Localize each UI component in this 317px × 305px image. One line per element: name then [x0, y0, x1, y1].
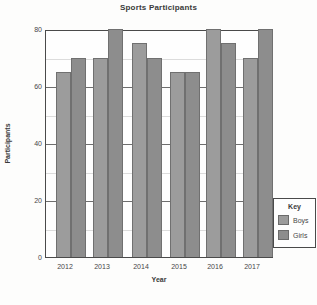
x-tick-2017: 2017 — [237, 263, 267, 270]
y-tick-80: 80 — [20, 26, 42, 33]
bar-boys-2013 — [93, 58, 108, 258]
y-tick-40: 40 — [20, 140, 42, 147]
x-axis-label: Year — [45, 276, 273, 283]
bar-chart-figure: Sports Participants Participants 0204060… — [0, 0, 317, 305]
bar-girls-2013 — [108, 29, 123, 257]
legend-title: Key — [274, 203, 315, 210]
bar-boys-2015 — [170, 72, 185, 257]
bar-girls-2016 — [221, 43, 236, 257]
legend-label-girls: Girls — [293, 232, 307, 239]
legend-item-boys: Boys — [278, 215, 315, 225]
bar-boys-2016 — [206, 29, 221, 257]
legend-item-girls: Girls — [278, 230, 315, 240]
x-tick-2016: 2016 — [200, 263, 230, 270]
chart-title: Sports Participants — [0, 3, 317, 12]
y-tick-0: 0 — [20, 254, 42, 261]
bar-girls-2014 — [147, 58, 162, 258]
y-axis-label: Participants — [4, 96, 11, 192]
bar-girls-2015 — [185, 72, 200, 257]
y-tick-60: 60 — [20, 83, 42, 90]
bar-boys-2014 — [132, 43, 147, 257]
bar-girls-2012 — [71, 58, 86, 258]
x-tick-2015: 2015 — [164, 263, 194, 270]
legend-items: BoysGirls — [274, 215, 315, 240]
x-tick-2014: 2014 — [126, 263, 156, 270]
legend-swatch-boys — [278, 215, 289, 225]
legend-label-boys: Boys — [293, 217, 309, 224]
x-tick-2012: 2012 — [50, 263, 80, 270]
bar-boys-2017 — [243, 58, 258, 258]
legend: Key BoysGirls — [273, 198, 316, 248]
legend-swatch-girls — [278, 230, 289, 240]
plot-area — [45, 30, 273, 258]
x-tick-2013: 2013 — [87, 263, 117, 270]
bar-girls-2017 — [258, 29, 273, 257]
bar-boys-2012 — [56, 72, 71, 257]
y-tick-20: 20 — [20, 197, 42, 204]
